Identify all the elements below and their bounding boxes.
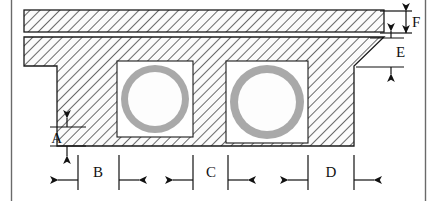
dimension-label-A: A <box>51 130 62 146</box>
pipe-bore-left <box>128 72 182 126</box>
cross-section-drawing: F E A B C D <box>0 0 444 201</box>
drawing-canvas: F E A B C D <box>0 0 444 201</box>
dimension-label-E: E <box>396 44 405 60</box>
dimension-label-F: F <box>412 14 420 30</box>
dimension-label-D: D <box>326 164 337 180</box>
pipe-bore-right <box>238 73 296 131</box>
girder-body-outline <box>24 37 384 146</box>
top-slab <box>24 10 384 32</box>
dimension-label-C: C <box>206 164 216 180</box>
void-cell-left <box>117 61 193 137</box>
dimension-label-B: B <box>93 164 103 180</box>
void-cell-right <box>226 61 308 143</box>
concrete-section <box>24 10 384 146</box>
